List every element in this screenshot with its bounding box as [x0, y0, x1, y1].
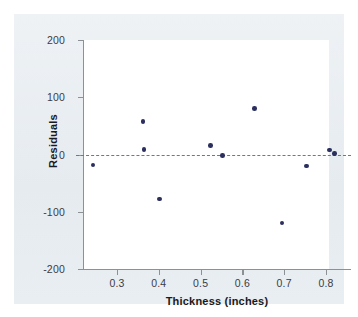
x-tick-label-0-4: 0.4	[139, 277, 179, 289]
x-axis-line	[83, 269, 351, 270]
x-tick-mark	[242, 270, 243, 275]
data-point	[220, 153, 225, 158]
x-tick-mark	[159, 270, 160, 275]
x-tick-mark	[117, 270, 118, 275]
x-tick-label-0-7: 0.7	[264, 277, 304, 289]
y-tick-label-200: 200	[14, 34, 75, 46]
y-tick-label-100: 100	[14, 91, 75, 103]
y-tick-mark	[78, 40, 83, 41]
zero-reference-line	[76, 155, 351, 156]
x-tick-label-0-3: 0.3	[97, 277, 137, 289]
y-tick-label-neg200: -200	[14, 263, 75, 275]
residual-plot-figure: 200 100 0 -100 -200 0.3 0.4 0.5 0.6 0.7 …	[0, 0, 358, 317]
y-tick-mark	[78, 212, 83, 213]
x-tick-label-0-8: 0.8	[306, 277, 346, 289]
data-point	[208, 143, 213, 148]
x-axis-title: Thickness (inches)	[83, 295, 351, 307]
x-tick-label-0-6: 0.6	[222, 277, 262, 289]
data-point	[157, 197, 162, 202]
figure-panel: 200 100 0 -100 -200 0.3 0.4 0.5 0.6 0.7 …	[14, 14, 344, 304]
y-tick-mark	[78, 269, 83, 270]
data-point	[142, 147, 147, 152]
y-tick-mark	[78, 97, 83, 98]
x-tick-mark	[201, 270, 202, 275]
data-point	[332, 151, 337, 156]
x-tick-label-0-5: 0.5	[181, 277, 221, 289]
x-tick-mark	[284, 270, 285, 275]
y-axis-title: Residuals	[47, 86, 59, 196]
data-point	[252, 106, 257, 111]
y-tick-label-0: 0	[14, 149, 75, 161]
x-tick-mark	[326, 270, 327, 275]
data-point	[327, 148, 332, 153]
y-tick-label-neg100: -100	[14, 206, 75, 218]
data-point	[141, 119, 146, 124]
